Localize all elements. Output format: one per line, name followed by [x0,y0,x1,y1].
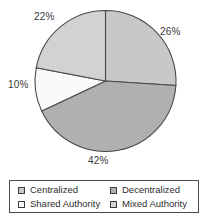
legend-item-centralized[interactable]: Centralized [10,185,108,195]
legend-row: Shared Authority Mixed Authority [10,197,198,211]
legend-item-label: Shared Authority [30,199,100,209]
pie-chart-figure: 26% 42% 10% 22% Centralized Decentralize… [0,0,210,221]
chart-legend: Centralized Decentralized Shared Authori… [9,180,199,213]
slice-value-label-shared-authority: 10% [8,79,29,90]
legend-item-label: Centralized [30,185,78,195]
legend-row: Centralized Decentralized [10,183,198,197]
slice-value-label-decentralized: 42% [88,155,109,166]
legend-item-label: Mixed Authority [122,199,187,209]
pie-slice-centralized[interactable] [106,11,176,86]
legend-swatch-icon [110,201,117,208]
legend-swatch-icon [18,187,25,194]
legend-item-label: Decentralized [122,185,180,195]
legend-item-mixed-authority[interactable]: Mixed Authority [108,199,198,209]
legend-item-shared-authority[interactable]: Shared Authority [10,199,108,209]
pie-slices [35,11,176,152]
slice-value-label-mixed-authority: 22% [34,11,55,22]
legend-swatch-icon [110,187,117,194]
slice-value-label-centralized: 26% [160,26,181,37]
legend-swatch-icon [18,201,25,208]
pie-chart-area: 26% 42% 10% 22% [0,0,210,168]
legend-item-decentralized[interactable]: Decentralized [108,185,198,195]
